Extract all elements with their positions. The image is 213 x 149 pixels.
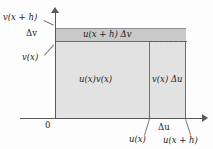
x-tick-label-u-x: u(x) (129, 134, 146, 144)
dashed-boundary-line (150, 41, 187, 42)
x-axis-line (20, 118, 204, 119)
product-rule-diagram: v(x + h) Δv v(x) 0 u(x) Δu u(x + h) u(x … (0, 0, 213, 149)
x-tick-label-delta-u: Δu (158, 122, 170, 132)
region-label-main: u(x)v(x) (79, 74, 112, 84)
y-tick-label-delta-v: Δv (26, 28, 37, 38)
region-label-side: v(x) Δu (152, 74, 183, 84)
x-tick-label-u-x-plus-h: u(x + h) (163, 135, 198, 145)
y-tick-label-v-x-plus-h: v(x + h) (3, 12, 37, 22)
origin-label: 0 (45, 120, 50, 130)
y-axis-arrow-icon (51, 7, 59, 13)
leader-line-u-x-plus-h (185, 119, 191, 135)
leader-line-v-x-plus-h (44, 20, 54, 26)
x-axis-arrow-icon (202, 114, 208, 122)
leader-line-v-x (44, 45, 54, 56)
y-axis-line (55, 13, 56, 119)
y-tick-label-v-x: v(x) (22, 52, 38, 62)
region-label-top-band: u(x + h) Δv (83, 29, 132, 39)
leader-line-u-x (144, 119, 150, 136)
